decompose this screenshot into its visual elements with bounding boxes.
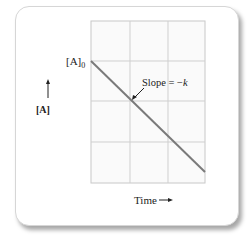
- slope-annotation: Slope = −k: [142, 77, 188, 88]
- plot-area: [91, 21, 205, 183]
- x-axis-label: Time: [134, 194, 157, 206]
- up-arrow-icon: [46, 79, 50, 84]
- rate-plot: [A]0 [A] Slope = −k Time: [0, 0, 247, 240]
- y-intercept-label: [A]0: [66, 55, 85, 70]
- y-axis-label: [A]: [36, 104, 50, 115]
- right-arrow-icon: [168, 198, 173, 202]
